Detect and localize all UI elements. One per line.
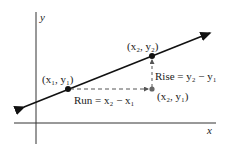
point-2-label: (x₂, y₂) [127,41,159,52]
point-1 [65,86,71,92]
point-3 [149,86,154,91]
point-1-label: (x₁, y₁) [42,74,74,85]
point-2 [149,53,155,59]
x-axis-label: x [207,125,212,136]
point-3-label: (x₂, y₁) [157,91,189,102]
run-label: Run = x₂ − x₁ [74,95,134,106]
rise-label: Rise = y₂ − y₁ [155,71,217,82]
y-axis-label: y [40,12,45,23]
